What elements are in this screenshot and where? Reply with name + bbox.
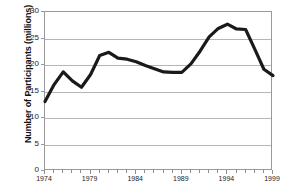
x-tick-label-1979: 1979 — [75, 175, 105, 183]
y-tickmark-10 — [41, 117, 44, 118]
x-tick-label-1994: 1994 — [211, 175, 241, 183]
line-chart: Number of Participants (millions) 051015… — [0, 0, 283, 190]
x-tickmark-1978 — [80, 170, 81, 173]
y-axis-ticks: 051015202530 — [0, 0, 283, 190]
x-tick-label-1989: 1989 — [166, 175, 196, 183]
x-tickmark-1993 — [217, 170, 218, 173]
x-tickmark-1984 — [135, 170, 136, 174]
x-tick-label-1984: 1984 — [120, 175, 150, 183]
y-tick-label-20: 20 — [13, 60, 39, 68]
y-tick-label-0: 0 — [13, 166, 39, 174]
x-tickmark-1987 — [163, 170, 164, 173]
x-tick-label-1974: 1974 — [29, 175, 59, 183]
y-tickmark-15 — [41, 91, 44, 92]
y-tickmark-25 — [41, 38, 44, 39]
x-tickmark-1982 — [117, 170, 118, 173]
x-tickmark-1985 — [144, 170, 145, 173]
x-tickmark-1980 — [99, 170, 100, 173]
x-tickmark-1998 — [263, 170, 264, 173]
x-tickmark-1975 — [53, 170, 54, 173]
x-tickmark-1977 — [71, 170, 72, 173]
x-tickmark-1989 — [181, 170, 182, 174]
y-tick-label-15: 15 — [13, 87, 39, 95]
x-tickmark-1995 — [236, 170, 237, 173]
x-tickmark-1991 — [199, 170, 200, 173]
y-tickmark-30 — [41, 11, 44, 12]
x-tickmark-1994 — [226, 170, 227, 174]
x-tickmark-1983 — [126, 170, 127, 173]
x-tick-label-1999: 1999 — [257, 175, 283, 183]
x-tickmark-1981 — [108, 170, 109, 173]
x-tickmark-1986 — [153, 170, 154, 173]
x-tickmark-1997 — [254, 170, 255, 173]
y-tick-label-30: 30 — [13, 7, 39, 15]
y-tick-label-10: 10 — [13, 113, 39, 121]
y-tick-label-25: 25 — [13, 34, 39, 42]
x-tickmark-1990 — [190, 170, 191, 173]
x-tickmark-1988 — [172, 170, 173, 173]
y-tick-label-5: 5 — [13, 140, 39, 148]
x-tickmark-1992 — [208, 170, 209, 173]
y-tickmark-5 — [41, 144, 44, 145]
x-tickmark-1974 — [44, 170, 45, 174]
y-tickmark-20 — [41, 64, 44, 65]
x-tickmark-1976 — [62, 170, 63, 173]
x-tickmark-1996 — [245, 170, 246, 173]
x-tickmark-1999 — [272, 170, 273, 174]
x-tickmark-1979 — [90, 170, 91, 174]
